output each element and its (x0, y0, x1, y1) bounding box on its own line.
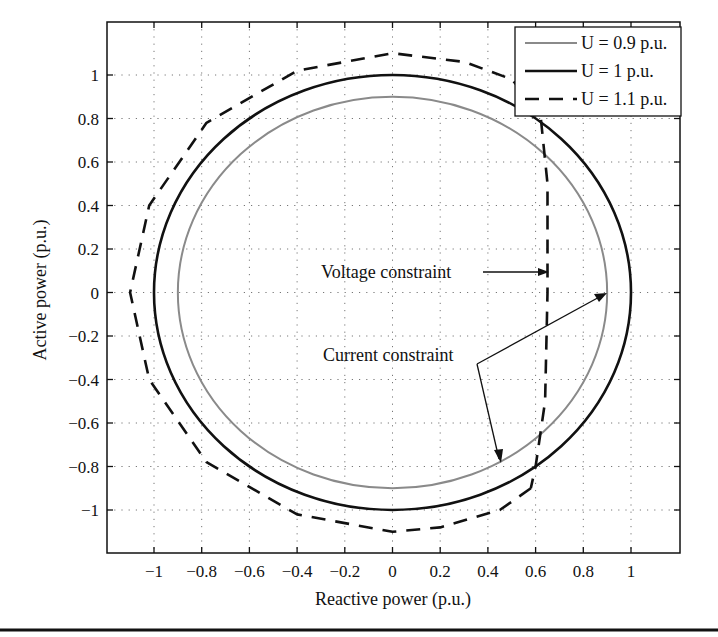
curve-u-0.9 (178, 97, 607, 489)
x-tick-label: 0 (388, 562, 397, 581)
curves (130, 53, 631, 532)
x-tick-label: 1 (627, 562, 636, 581)
x-tick-label: 0.2 (430, 562, 451, 581)
legend-item-1: U = 1 p.u. (581, 61, 654, 81)
y-tick-label: 0.2 (78, 240, 99, 259)
y-tick-label: 0.4 (78, 197, 100, 216)
curve-u-1 (154, 75, 631, 510)
y-tick-label: −0.8 (68, 458, 99, 477)
chart-svg: Voltage constraint Current constraint −1… (0, 0, 718, 637)
y-axis-label: Active power (p.u.) (30, 220, 51, 361)
x-tick-label: −0.8 (186, 562, 217, 581)
y-tick-label: 0.8 (78, 110, 99, 129)
y-tick-label: −0.6 (68, 414, 99, 433)
x-tick-label: 0.4 (477, 562, 499, 581)
y-tick-label: 1 (91, 66, 100, 85)
voltage-constraint-label: Voltage constraint (321, 262, 451, 282)
y-tick-label: −0.2 (68, 327, 99, 346)
legend-item-0.9: U = 0.9 p.u. (581, 33, 667, 53)
x-axis-label: Reactive power (p.u.) (315, 589, 471, 610)
x-tick-label: −0.6 (234, 562, 265, 581)
y-tick-label: 0 (91, 284, 100, 303)
legend: U = 0.9 p.u. U = 1 p.u. U = 1.1 p.u. (515, 27, 681, 116)
curve-u-1.1 (130, 53, 547, 532)
x-tick-label: −1 (145, 562, 163, 581)
x-tick-label: 0.8 (573, 562, 594, 581)
legend-item-1.1: U = 1.1 p.u. (581, 89, 667, 109)
current-constraint-arrow-2 (477, 364, 499, 459)
y-tick-label: −0.4 (68, 371, 99, 390)
current-constraint-label: Current constraint (323, 345, 453, 365)
x-tick-label: −0.2 (329, 562, 360, 581)
current-constraint-arrow-1 (477, 295, 603, 364)
x-tick-label: 0.6 (525, 562, 546, 581)
y-tick-label: −1 (81, 501, 99, 520)
annotations: Voltage constraint Current constraint (321, 262, 607, 463)
y-tick-label: 0.6 (78, 153, 99, 172)
x-tick-label: −0.4 (282, 562, 313, 581)
arrowhead-icon (594, 293, 607, 302)
